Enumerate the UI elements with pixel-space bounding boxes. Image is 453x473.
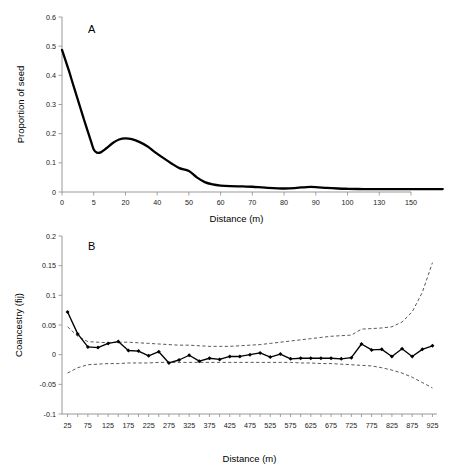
panel-b-y-tick-label: -0.1 — [44, 410, 56, 419]
panel-b-data-marker — [319, 356, 323, 360]
panel-a-x-axis-title: Distance (m) — [210, 213, 264, 224]
panel-b-data-marker — [329, 356, 333, 360]
panel-b-y-tick-label: 0 — [52, 350, 56, 359]
panel-a-x-tick-label: 60 — [217, 198, 225, 207]
panel-a-y-tick-label: 0.4 — [46, 71, 56, 80]
panel-a-x-tick-label: 90 — [312, 198, 320, 207]
panel-b-x-tick-label: 225 — [143, 421, 155, 430]
panel-b-x-tick-label: 725 — [345, 421, 357, 430]
panel-b-letter: B — [88, 240, 95, 252]
panel-a-y-tick-label: 0.6 — [46, 13, 56, 22]
panel-b-x-tick-label: 25 — [64, 421, 72, 430]
panel-a-x-tick-label: 150 — [405, 198, 417, 207]
panel-b-x-tick-label: 675 — [325, 421, 337, 430]
panel-a-x-tick-label: 50 — [185, 198, 193, 207]
panel-b-y-tick-label: 0.15 — [42, 261, 56, 270]
panel-b-y-tick-label: 0.05 — [42, 321, 56, 330]
panel-b-data-marker — [299, 356, 303, 360]
panel-b-coancestry: -0.1-0.0500.050.10.150.22575125175225275… — [0, 228, 453, 473]
panel-a-x-tick-label: 20 — [121, 198, 129, 207]
panel-b-data-marker — [258, 351, 262, 355]
panel-b-y-axis-title: Coancestry (fij) — [13, 293, 24, 357]
panel-a-x-tick-label: 40 — [153, 198, 161, 207]
panel-b-x-tick-label: 775 — [366, 421, 378, 430]
panel-b-data-marker — [207, 356, 211, 360]
panel-a-seed-dispersal: 00.10.20.30.40.50.6052040506070809010013… — [0, 0, 453, 232]
panel-a-y-axis-title: Proportion of seed — [15, 66, 26, 144]
panel-b-x-tick-label: 325 — [183, 421, 195, 430]
panel-b-x-tick-label: 575 — [285, 421, 297, 430]
panel-b-x-tick-label: 875 — [406, 421, 418, 430]
panel-b-ci-lower — [68, 362, 433, 388]
panel-b-x-tick-label: 925 — [426, 421, 438, 430]
panel-b-x-tick-label: 175 — [122, 421, 134, 430]
panel-b-x-tick-label: 825 — [386, 421, 398, 430]
panel-b-data-marker — [339, 357, 343, 361]
panel-b-x-tick-label: 475 — [244, 421, 256, 430]
panel-b-data-marker — [268, 355, 272, 359]
panel-a-seed-curve — [62, 50, 443, 189]
panel-b-x-tick-label: 375 — [203, 421, 215, 430]
panel-b-x-tick-label: 75 — [84, 421, 92, 430]
panel-a-plot: 00.10.20.30.40.50.6052040506070809010013… — [0, 0, 453, 232]
figure-container: 00.10.20.30.40.50.6052040506070809010013… — [0, 0, 453, 473]
panel-b-x-tick-label: 625 — [305, 421, 317, 430]
panel-b-data-marker — [248, 353, 252, 357]
panel-b-ci-upper — [68, 263, 433, 347]
panel-b-data-marker — [278, 352, 282, 356]
panel-b-data-marker — [228, 354, 232, 358]
panel-a-x-tick-label: 100 — [342, 198, 354, 207]
panel-b-x-tick-label: 125 — [102, 421, 114, 430]
panel-b-y-tick-label: -0.05 — [40, 380, 56, 389]
panel-b-x-tick-label: 425 — [224, 421, 236, 430]
panel-a-x-tick-label: 80 — [280, 198, 288, 207]
panel-a-y-tick-label: 0.3 — [46, 100, 56, 109]
panel-b-x-tick-label: 525 — [264, 421, 276, 430]
panel-b-y-tick-label: 0.1 — [46, 291, 56, 300]
panel-b-x-tick-label: 275 — [163, 421, 175, 430]
panel-b-x-axis-title: Distance (m) — [223, 453, 277, 464]
panel-a-x-tick-label: 5 — [92, 198, 96, 207]
panel-b-data-marker — [309, 356, 313, 360]
panel-a-x-tick-label: 70 — [248, 198, 256, 207]
panel-b-plot: -0.1-0.0500.050.10.150.22575125175225275… — [0, 228, 453, 473]
panel-a-y-tick-label: 0.1 — [46, 158, 56, 167]
panel-a-y-tick-label: 0 — [52, 188, 56, 197]
panel-b-data-marker — [66, 310, 70, 314]
panel-a-x-tick-label: 0 — [60, 198, 64, 207]
panel-b-data-marker — [238, 354, 242, 358]
panel-b-y-tick-label: 0.2 — [46, 232, 56, 241]
panel-b-data-marker — [177, 358, 181, 362]
panel-b-data-marker — [96, 346, 100, 350]
panel-a-y-tick-label: 0.2 — [46, 129, 56, 138]
panel-a-letter: A — [88, 23, 96, 35]
panel-a-y-tick-label: 0.5 — [46, 42, 56, 51]
panel-b-data-marker — [106, 341, 110, 345]
panel-a-x-tick-label: 130 — [373, 198, 385, 207]
panel-b-data-marker — [430, 344, 434, 348]
panel-b-data-marker — [218, 357, 222, 361]
